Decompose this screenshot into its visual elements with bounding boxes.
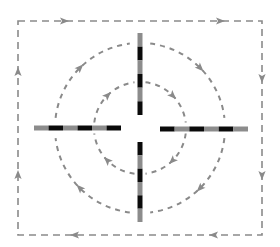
arrow-right-icon [216,17,225,24]
arrow-clockwise-icon [166,155,177,166]
inner-circle-arc [94,82,134,122]
arrow-clockwise-icon [167,90,178,101]
outer-circle-arc [56,138,130,212]
arrow-up-icon [14,67,21,76]
inner-circle-arc [94,134,134,174]
arrow-right-icon [60,17,69,24]
arrow-down-icon [258,74,265,83]
cross-bars [34,33,248,222]
outer-circle-arc [150,138,224,212]
outer-circle-arc [150,44,224,118]
circulation-diagram [0,0,280,247]
inner-circle-arc [146,82,186,122]
inner-circle-arc [146,134,186,174]
arrow-left-icon [209,231,218,238]
outer-circle-arc [56,44,130,118]
arrow-clockwise-icon [102,89,113,100]
arrow-clockwise-icon [101,154,112,165]
arrow-down-icon [258,171,265,180]
